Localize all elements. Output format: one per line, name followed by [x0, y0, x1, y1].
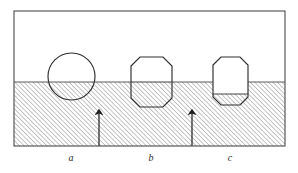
figure-canvas: a b c	[0, 0, 298, 173]
label-c: c	[228, 152, 233, 163]
label-b: b	[149, 152, 154, 163]
buoyancy-figure: a b c	[0, 0, 298, 173]
label-a: a	[69, 152, 74, 163]
